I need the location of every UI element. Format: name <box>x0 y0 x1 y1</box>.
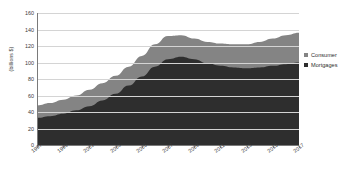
gridline <box>37 129 299 130</box>
gridline <box>37 112 299 113</box>
y-axis-tick-label: 80 <box>28 76 34 82</box>
chart-legend: ConsumerMortgages <box>304 52 337 72</box>
y-axis-tick-label: 120 <box>25 43 34 49</box>
legend-item: Mortgages <box>304 62 337 68</box>
plot-area <box>37 13 299 145</box>
y-axis-tick-label: 160 <box>25 10 34 16</box>
y-axis-tick-label: 60 <box>28 93 34 99</box>
gridline <box>37 63 299 64</box>
y-axis-tick-label: 20 <box>28 126 34 132</box>
x-axis-tick-mark <box>142 146 143 148</box>
x-axis-tick-mark <box>168 146 169 148</box>
gridline <box>37 46 299 47</box>
legend-item: Consumer <box>304 52 337 58</box>
x-axis-tick-mark <box>63 146 64 148</box>
x-axis-tick-mark <box>89 146 90 148</box>
legend-label: Consumer <box>311 52 337 58</box>
x-axis-tick-mark <box>220 146 221 148</box>
x-axis-tick-mark <box>37 146 38 148</box>
gridline <box>37 13 299 14</box>
y-axis-tick-label: 140 <box>25 27 34 33</box>
legend-swatch-icon <box>304 63 308 67</box>
gridline <box>37 96 299 97</box>
legend-label: Mortgages <box>311 62 337 68</box>
x-axis-tick-mark <box>194 146 195 148</box>
gridline <box>37 79 299 80</box>
y-axis-tick-labels: 020406080100120140160 <box>12 0 34 169</box>
gridline <box>37 30 299 31</box>
x-axis-tick-mark <box>247 146 248 148</box>
y-axis-line <box>37 13 38 146</box>
y-axis-tick-label: 100 <box>25 60 34 66</box>
y-axis-tick-label: 40 <box>28 109 34 115</box>
stacked-area-chart: (billions $) 020406080100120140160 19971… <box>0 0 354 169</box>
x-axis-tick-mark <box>273 146 274 148</box>
legend-swatch-icon <box>304 53 308 57</box>
x-axis-tick-mark <box>116 146 117 148</box>
x-axis-tick-mark <box>299 146 300 148</box>
